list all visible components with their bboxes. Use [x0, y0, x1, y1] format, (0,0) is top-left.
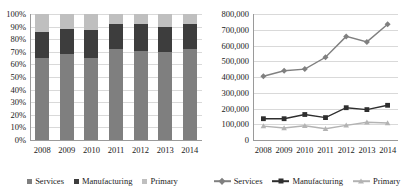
data-point-marker — [302, 66, 308, 72]
bar-segment-services — [158, 52, 172, 140]
bar-segment-services — [109, 49, 123, 140]
y-axis-tick-label: 300,000 — [207, 89, 249, 98]
stacked-bar-legend: ServicesManufacturingPrimary — [0, 176, 205, 186]
stacked-bar — [35, 14, 49, 140]
x-axis-tick-label: 2013 — [157, 146, 174, 155]
data-point-marker — [385, 103, 390, 108]
y-axis-tick-label: 50% — [0, 73, 26, 82]
bar-segment-manufacturing — [60, 29, 74, 54]
line-series-group — [253, 14, 398, 140]
data-point-marker — [281, 68, 287, 74]
legend-item-services: Services — [27, 176, 64, 186]
stacked-bar — [134, 14, 148, 140]
x-axis-tick-label: 2008 — [34, 146, 51, 155]
legend-item-primary: Primary — [353, 176, 400, 186]
legend-label: Manufacturing — [292, 176, 343, 186]
data-point-marker — [365, 107, 370, 112]
legend-item-manufacturing: Manufacturing — [74, 176, 133, 186]
legend-label: Services — [35, 176, 64, 186]
bar-segment-manufacturing — [183, 24, 197, 49]
y-axis-tick-label: 30% — [0, 98, 26, 107]
bar-segment-manufacturing — [158, 27, 172, 52]
x-axis-tick-label: 2014 — [181, 146, 198, 155]
bar-segment-services — [60, 54, 74, 140]
stacked-bar — [60, 14, 74, 140]
bar-segment-primary — [158, 14, 172, 27]
x-axis-tick-label: 2012 — [338, 146, 355, 155]
bar-segment-manufacturing — [134, 24, 148, 50]
bar-segment-services — [134, 51, 148, 140]
y-axis-tick-label: 80% — [0, 35, 26, 44]
y-axis-tick-label: 100,000 — [207, 120, 249, 129]
legend-label: Primary — [150, 176, 177, 186]
y-axis-tick-label: 700,000 — [207, 26, 249, 35]
data-point-marker — [344, 105, 349, 110]
legend-item-services: Services — [214, 176, 263, 186]
legend-marker-services — [219, 178, 225, 184]
line-chart-legend: ServicesManufacturingPrimary — [205, 176, 409, 186]
bar-segment-primary — [35, 14, 49, 32]
y-axis-tick-label: 0% — [0, 136, 26, 145]
bar-segment-primary — [109, 14, 123, 24]
y-axis-tick-label: 400,000 — [207, 73, 249, 82]
stacked-bar — [109, 14, 123, 140]
bar-segment-manufacturing — [109, 24, 123, 49]
y-axis-tick-label: 600,000 — [207, 41, 249, 50]
data-point-marker — [260, 73, 266, 79]
legend-label: Manufacturing — [82, 176, 133, 186]
y-axis-tick-label: 500,000 — [207, 57, 249, 66]
legend-line-services — [214, 178, 231, 185]
legend-label: Primary — [373, 176, 400, 186]
legend-line-manufacturing — [272, 178, 289, 185]
y-axis-tick-label: 40% — [0, 85, 26, 94]
line-chart-panel: 0100,000200,000300,000400,000500,000600,… — [205, 0, 409, 190]
y-axis-tick-label: 0 — [207, 136, 249, 145]
bar-segment-primary — [183, 14, 197, 24]
legend-item-manufacturing: Manufacturing — [272, 176, 343, 186]
x-axis-line — [253, 140, 398, 141]
legend-item-primary: Primary — [142, 176, 177, 186]
legend-marker-primary — [358, 179, 364, 184]
y-axis-tick-label: 100% — [0, 10, 26, 19]
y-axis-line — [30, 14, 31, 140]
x-axis-line — [30, 140, 202, 141]
x-axis-tick-label: 2008 — [255, 146, 272, 155]
bar-segment-services — [84, 58, 98, 140]
legend-label: Services — [234, 176, 263, 186]
x-axis-tick-label: 2009 — [58, 146, 75, 155]
legend-marker-manufacturing — [278, 179, 283, 184]
x-axis-tick-label: 2013 — [358, 146, 375, 155]
y-axis-tick-label: 800,000 — [207, 10, 249, 19]
legend-swatch-services — [27, 179, 32, 184]
bar-segment-primary — [84, 14, 98, 30]
line-series-services — [263, 24, 387, 76]
y-axis-tick-label: 90% — [0, 22, 26, 31]
stacked-bar — [183, 14, 197, 140]
data-point-marker — [323, 115, 328, 120]
bar-segment-manufacturing — [35, 32, 49, 58]
legend-swatch-primary — [142, 179, 147, 184]
bar-segment-services — [35, 58, 49, 140]
x-axis-tick-label: 2010 — [296, 146, 313, 155]
y-axis-tick-label: 200,000 — [207, 104, 249, 113]
bar-segment-manufacturing — [84, 30, 98, 58]
x-axis-tick-label: 2011 — [108, 146, 125, 155]
y-axis-tick-label: 20% — [0, 111, 26, 120]
y-axis-tick-label: 10% — [0, 123, 26, 132]
legend-line-primary — [353, 178, 370, 185]
x-axis-tick-label: 2009 — [276, 146, 293, 155]
data-point-marker — [261, 116, 266, 121]
stacked-bar — [84, 14, 98, 140]
y-axis-tick-label: 60% — [0, 60, 26, 69]
data-point-marker — [302, 112, 307, 117]
stacked-bar — [158, 14, 172, 140]
dual-chart-figure: 0%10%20%30%40%50%60%70%80%90%100%2008200… — [0, 0, 409, 190]
x-axis-tick-label: 2010 — [83, 146, 100, 155]
x-axis-tick-label: 2014 — [379, 146, 396, 155]
x-axis-tick-label: 2012 — [132, 146, 149, 155]
bar-segment-primary — [134, 14, 148, 24]
x-axis-tick-label: 2011 — [317, 146, 334, 155]
stacked-bar-plot-area: 0%10%20%30%40%50%60%70%80%90%100%2008200… — [30, 14, 202, 140]
bar-segment-services — [183, 49, 197, 140]
legend-swatch-manufacturing — [74, 179, 79, 184]
